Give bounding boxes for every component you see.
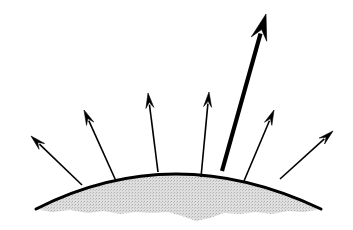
figure-canvas <box>0 0 353 230</box>
radiating-arrows-diagram <box>0 0 353 230</box>
